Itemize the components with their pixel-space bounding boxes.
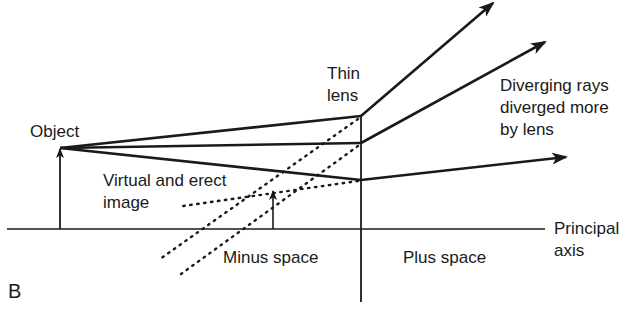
virtual-image-label-line1: Virtual and erect	[103, 171, 226, 191]
ray-diagram-svg	[0, 0, 639, 316]
diverging-rays-label-line2: diverged more	[500, 98, 609, 118]
diverging-rays-label-line3: by lens	[500, 120, 554, 140]
plus-space-label: Plus space	[403, 248, 486, 268]
thin-lens-label-line1: Thin	[327, 64, 360, 84]
diverging-lens-diagram: Object Thin lens Diverging rays diverged…	[0, 0, 639, 316]
refracted-ray-bottom	[361, 157, 566, 180]
panel-label: B	[8, 281, 21, 301]
thin-lens-label-line2: lens	[327, 86, 358, 106]
virtual-image-label-line2: image	[103, 193, 149, 213]
principal-axis-label-line2: axis	[554, 241, 584, 261]
principal-axis-label-line1: Principal	[554, 219, 619, 239]
minus-space-label: Minus space	[223, 248, 318, 268]
diverging-rays-label-line1: Diverging rays	[500, 76, 609, 96]
object-label: Object	[30, 122, 79, 142]
refracted-ray-top	[361, 3, 493, 116]
